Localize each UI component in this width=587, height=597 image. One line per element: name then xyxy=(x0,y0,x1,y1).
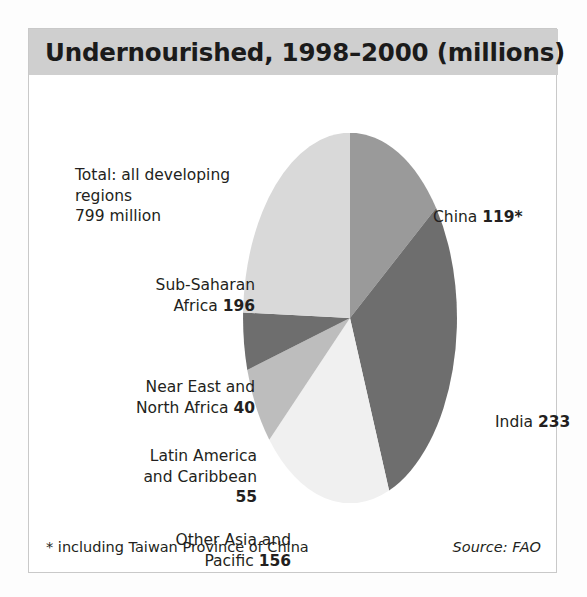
chart-plot-area: Total: all developingregions799 million … xyxy=(29,75,556,527)
label-china-value: 119* xyxy=(482,208,522,226)
label-total-line3: 799 million xyxy=(75,207,161,225)
source-text: Source: FAO xyxy=(453,539,541,555)
label-total: Total: all developingregions799 million xyxy=(75,165,265,227)
label-sub-saharan-value: 196 xyxy=(223,297,255,315)
figure-card: Undernourished, 1998–2000 (millions) xyxy=(28,28,557,573)
pie-chart xyxy=(243,133,457,503)
title-banner: Undernourished, 1998–2000 (millions) xyxy=(29,29,558,75)
label-sub-saharan-line1: Sub-Saharan xyxy=(156,276,255,294)
page-title: Undernourished, 1998–2000 (millions) xyxy=(45,38,565,67)
label-india-value: 233 xyxy=(538,413,570,431)
pie-chart-svg xyxy=(243,133,457,503)
footnote-text: * including Taiwan Province of China xyxy=(46,539,309,555)
figure-footer: * including Taiwan Province of China Sou… xyxy=(29,527,558,573)
label-near-east-north-africa: Near East andNorth Africa 40 xyxy=(65,377,255,418)
label-latin-america-line2: and Caribbean xyxy=(143,468,257,486)
label-latin-america-value: 55 xyxy=(235,488,257,506)
label-china-name: China xyxy=(433,208,482,226)
label-sub-saharan-name: Africa xyxy=(174,297,223,315)
label-near-east-name: North Africa xyxy=(136,399,233,417)
label-sub-saharan-africa: Sub-SaharanAfrica 196 xyxy=(75,275,255,316)
label-china: China 119* xyxy=(433,207,583,228)
page-background: Undernourished, 1998–2000 (millions) xyxy=(0,0,587,597)
label-india: India 233 xyxy=(495,412,587,433)
label-total-line1: Total: all developing xyxy=(75,166,230,184)
label-india-name: India xyxy=(495,413,538,431)
label-total-line2: regions xyxy=(75,187,132,205)
label-latin-america-caribbean: Latin Americaand Caribbean55 xyxy=(65,446,257,508)
label-latin-america-line1: Latin America xyxy=(150,447,257,465)
label-near-east-value: 40 xyxy=(233,399,255,417)
label-near-east-line1: Near East and xyxy=(146,378,255,396)
